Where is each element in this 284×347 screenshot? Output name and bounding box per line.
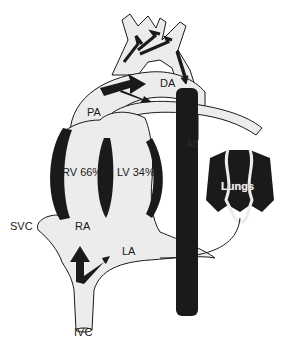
label-ra: RA <box>75 220 90 232</box>
label-lungs: Lungs <box>221 180 254 192</box>
descending-aorta <box>176 88 198 316</box>
label-ivc: IVC <box>74 326 92 338</box>
label-lv: LV 34% <box>117 166 155 178</box>
label-rv: RV 66% <box>62 166 102 178</box>
label-la: LA <box>122 245 135 257</box>
label-svc: SVC <box>10 220 33 232</box>
label-ao: Ao <box>186 138 198 149</box>
label-da: DA <box>160 77 175 89</box>
label-pa: PA <box>87 106 101 118</box>
